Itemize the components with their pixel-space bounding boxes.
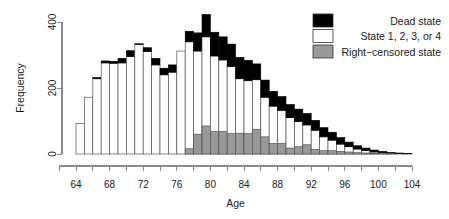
legend-swatch — [313, 14, 333, 27]
histogram-bar — [135, 44, 143, 154]
bar-segment-censored — [353, 153, 361, 154]
histogram-bar — [219, 37, 227, 154]
x-tick-label: 76 — [171, 179, 183, 190]
histogram-bar — [328, 132, 336, 154]
histogram-bar — [370, 150, 378, 154]
x-axis: 646872768084889296100104 — [59, 166, 421, 190]
x-tick-label: 84 — [238, 179, 250, 190]
bar-segment-alive — [126, 57, 134, 154]
bar-segment-dead — [378, 151, 386, 152]
histogram-bar — [353, 146, 361, 154]
histogram-bar — [185, 31, 193, 154]
bar-segment-alive — [152, 65, 160, 154]
histogram-bar — [93, 77, 101, 154]
bar-segment-dead — [328, 132, 336, 140]
y-axis-title: Frequency — [14, 62, 26, 112]
bar-segment-censored — [210, 132, 218, 154]
bar-segment-censored — [252, 129, 260, 154]
histogram-bar — [320, 128, 328, 154]
legend-swatch — [313, 30, 333, 43]
x-tick-label: 80 — [205, 179, 217, 190]
bar-segment-alive — [177, 51, 185, 154]
histogram-bar — [395, 153, 403, 154]
bar-segment-censored — [244, 134, 252, 154]
bar-segment-dead — [227, 44, 235, 66]
bar-segment-dead — [261, 80, 269, 97]
legend-label: State 1, 2, 3, or 4 — [360, 30, 441, 42]
bar-segment-dead — [294, 109, 302, 122]
bar-segment-censored — [294, 147, 302, 154]
bar-segment-censored — [328, 151, 336, 154]
x-tick-label: 64 — [70, 179, 82, 190]
histogram-bar — [362, 148, 370, 154]
bar-segment-alive — [76, 124, 84, 154]
x-tick-label: 88 — [272, 179, 284, 190]
legend-item: State 1, 2, 3, or 4 — [313, 30, 441, 43]
histogram-bar — [152, 58, 160, 154]
bar-segment-dead — [202, 14, 210, 36]
histogram-bar — [118, 58, 126, 154]
histogram-bar — [236, 57, 244, 154]
bar-segment-dead — [168, 65, 176, 72]
histogram-bar — [143, 48, 151, 154]
bar-segment-censored — [261, 137, 269, 154]
bar-segment-dead — [143, 48, 151, 52]
histogram-bar — [378, 151, 386, 154]
bar-segment-dead — [387, 152, 395, 153]
bar-segment-dead — [126, 51, 134, 57]
y-tick-label: 200 — [47, 79, 58, 96]
bar-segment-alive — [84, 97, 92, 154]
y-axis: 0200400 — [47, 13, 63, 157]
bar-segment-dead — [210, 32, 218, 56]
histogram-bar — [387, 152, 395, 154]
bar-segment-dead — [93, 77, 101, 78]
bar-segment-dead — [345, 142, 353, 147]
bar-segment-censored — [311, 149, 319, 154]
legend-label: Right−censored state — [341, 46, 441, 58]
histogram-bar — [194, 33, 202, 154]
histogram-bar — [303, 113, 311, 154]
bar-segment-censored — [370, 153, 378, 154]
bar-segment-dead — [362, 148, 370, 151]
histogram-chart: 0200400Frequency646872768084889296100104… — [0, 0, 449, 219]
histogram-bar — [244, 60, 252, 154]
legend-swatch — [313, 45, 333, 58]
bar-segment-censored — [194, 134, 202, 154]
histogram-bar — [101, 61, 109, 154]
bar-segment-dead — [160, 68, 168, 75]
bar-segment-dead — [286, 105, 294, 118]
histogram-bar — [252, 64, 260, 154]
bar-segment-alive — [160, 75, 168, 154]
bar-segment-censored — [320, 151, 328, 154]
bar-segment-alive — [168, 72, 176, 154]
bar-segment-censored — [227, 134, 235, 154]
bar-segment-dead — [395, 153, 403, 154]
histogram-bar — [286, 105, 294, 155]
histogram-bar — [261, 80, 269, 154]
y-tick-label: 400 — [47, 13, 58, 30]
histogram-bar — [294, 109, 302, 154]
bar-segment-censored — [286, 148, 294, 154]
bar-segment-alive — [118, 63, 126, 154]
bar-segment-alive — [110, 63, 118, 154]
bar-segment-dead — [320, 128, 328, 137]
bar-segment-dead — [269, 91, 277, 106]
bar-segment-dead — [118, 58, 126, 63]
histogram-bar — [278, 97, 286, 154]
bar-segment-dead — [370, 150, 378, 152]
histogram-bar — [160, 68, 168, 154]
bar-segment-alive — [135, 44, 143, 154]
bar-segment-dead — [101, 61, 109, 63]
bar-segment-dead — [194, 33, 202, 51]
histogram-bar — [84, 97, 92, 154]
bar-segment-dead — [236, 57, 244, 78]
bar-segment-dead — [110, 61, 118, 63]
histogram-bar — [126, 51, 134, 154]
bar-segment-censored — [185, 149, 193, 154]
bar-segment-alive — [93, 79, 101, 154]
histogram-bar — [110, 61, 118, 154]
bar-segment-alive — [143, 52, 151, 154]
x-tick-label: 100 — [370, 179, 387, 190]
bar-segment-censored — [336, 151, 344, 154]
bar-segment-dead — [278, 97, 286, 111]
